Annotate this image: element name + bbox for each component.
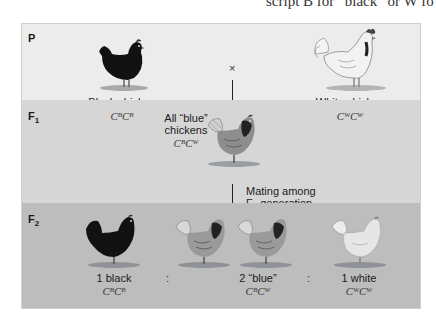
cross-symbol: ×	[229, 62, 235, 74]
blue-chicken-icon	[204, 109, 264, 169]
f2-blue-label: 2 “blue” CBCW	[218, 272, 298, 297]
white-rooster-icon	[310, 28, 390, 92]
f2-white-name: 1 white	[319, 272, 399, 284]
cropped-body-text: script B for “black” or W fo	[266, 0, 434, 10]
f2-white-genotype: CWCW	[319, 284, 399, 297]
inheritance-figure: P × Black chicken Whi	[21, 23, 421, 309]
f2-blue-name: 2 “blue”	[218, 272, 298, 284]
f2-blue-genotype: CBCW	[218, 284, 298, 297]
f2-black-genotype: CBCB	[74, 284, 154, 297]
label-p: P	[28, 32, 35, 44]
mating-line1: Mating among	[246, 185, 316, 197]
white-chicken-genotype: CWCW	[290, 109, 410, 122]
black-chicken-genotype: CBCB	[62, 109, 182, 122]
f2-blue-chicken-icon-2	[234, 211, 296, 269]
f2-black-label: 1 black CBCB	[74, 272, 154, 297]
label-f2: F2	[28, 213, 39, 228]
f2-black-name: 1 black	[74, 272, 154, 284]
black-chicken-icon	[94, 36, 150, 92]
f2-white-label: 1 white CWCW	[319, 272, 399, 297]
label-f1: F1	[28, 110, 39, 125]
panel-f2-generation: F2	[22, 203, 420, 308]
ratio-separator-2: :	[307, 272, 310, 284]
f2-black-chicken-icon	[82, 211, 144, 269]
panel-p-generation: P × Black chicken Whi	[22, 24, 420, 104]
ratio-separator-1: :	[166, 272, 169, 284]
f2-blue-chicken-icon-1	[172, 211, 234, 269]
f2-white-chicken-icon	[328, 211, 390, 269]
